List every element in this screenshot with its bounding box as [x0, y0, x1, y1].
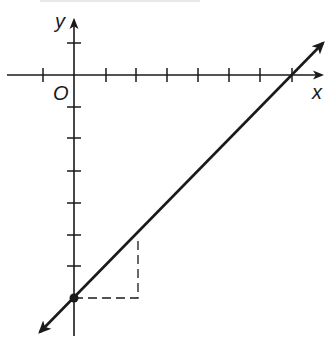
x-axis-label: x — [311, 81, 323, 103]
graph-svg: y x O — [0, 0, 336, 340]
y-intercept-point — [70, 294, 79, 303]
y-axis-label: y — [53, 10, 66, 32]
graphed-line — [40, 43, 323, 332]
origin-label: O — [53, 82, 69, 104]
cutoff-caption-fragment — [40, 0, 200, 2]
coordinate-plane-figure: y x O — [0, 0, 336, 340]
